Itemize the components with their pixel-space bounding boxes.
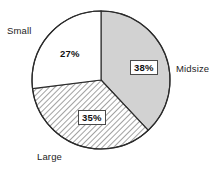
- pie-label-large: Large: [37, 151, 62, 162]
- pie-value-large: 35%: [78, 110, 106, 125]
- pie-chart-canvas: [0, 0, 221, 172]
- pie-chart-figure: Small Midsize Large 38% 35% 27%: [0, 0, 221, 172]
- pie-label-midsize: Midsize: [176, 63, 209, 74]
- pie-label-small: Small: [7, 25, 32, 36]
- pie-value-small: 27%: [60, 48, 80, 59]
- pie-value-midsize: 38%: [130, 60, 158, 75]
